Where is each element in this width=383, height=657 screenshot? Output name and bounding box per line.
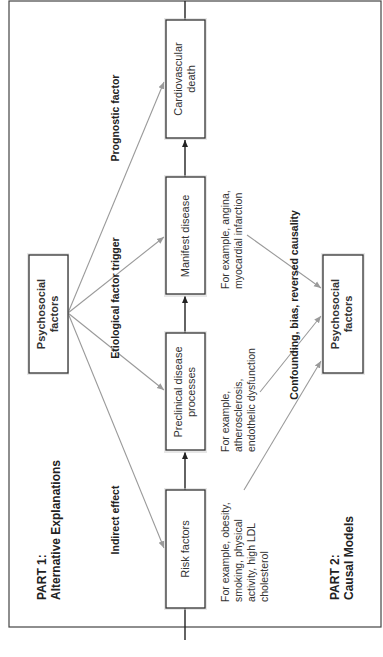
svg-text:For example, obesity,: For example, obesity, — [219, 502, 231, 602]
svg-text:activity, high LDL: activity, high LDL — [245, 523, 257, 602]
note-manifest: For example, angina, myocardial infarcti… — [219, 190, 244, 289]
node-cardiovascular-death: Cardiovascular death — [164, 18, 207, 140]
node-preclinical: Preclinical disease processes — [164, 331, 207, 453]
psychosocial-bottom-line1: Psychosocial — [329, 279, 341, 349]
svg-text:atherosclerosis,: atherosclerosis, — [232, 378, 244, 452]
preclinical-line2: processes — [185, 366, 197, 417]
part1-title-line1: PART 1: — [35, 554, 49, 600]
svg-text:For example,: For example, — [219, 391, 231, 452]
causal-diagram: Psychosocial factors Cardiovascular deat… — [0, 0, 383, 657]
cv-death-line1: Cardiovascular — [172, 42, 184, 116]
svg-text:cholesterol: cholesterol — [258, 551, 270, 602]
label-indirect-effect: Indirect effect — [109, 485, 121, 554]
preclinical-line1: Preclinical disease — [172, 346, 184, 437]
psychosocial-top-line1: Psychosocial — [35, 279, 47, 349]
part2-title-line2: Causal Models — [342, 516, 356, 600]
node-manifest-disease: Manifest disease — [164, 175, 207, 297]
cv-death-line2: death — [185, 65, 197, 93]
label-etiological-trigger: Etiological factor trigger — [109, 237, 121, 358]
psychosocial-top-line2: factors — [48, 296, 60, 333]
svg-text:myocardial infarction: myocardial infarction — [232, 193, 244, 289]
node-risk-factors: Risk factors — [164, 488, 207, 610]
svg-text:smoking, physical: smoking, physical — [232, 519, 244, 602]
part2-title-line1: PART 2: — [328, 554, 342, 600]
part1-title-line2: Alternative Explanations — [49, 460, 63, 600]
note-risk-factors: For example, obesity, smoking, physical … — [219, 502, 270, 602]
manifest-line1: Manifest disease — [179, 195, 191, 278]
note-preclinical: For example, atherosclerosis, endothelic… — [219, 348, 257, 452]
node-psychosocial-top: Psychosocial factors — [27, 253, 69, 375]
svg-text:For example, angina,: For example, angina, — [219, 190, 231, 289]
label-confounding: Confounding, bias, reversed causality — [288, 210, 300, 400]
svg-text:endothelic dysfunction: endothelic dysfunction — [245, 348, 257, 452]
risk-line1: Risk factors — [179, 520, 191, 578]
arrow-manifest-note-to-psychosocial — [247, 235, 321, 288]
label-prognostic-factor: Prognostic factor — [109, 75, 121, 162]
psychosocial-bottom-line2: factors — [342, 296, 354, 333]
node-psychosocial-bottom: Psychosocial factors — [321, 253, 365, 375]
